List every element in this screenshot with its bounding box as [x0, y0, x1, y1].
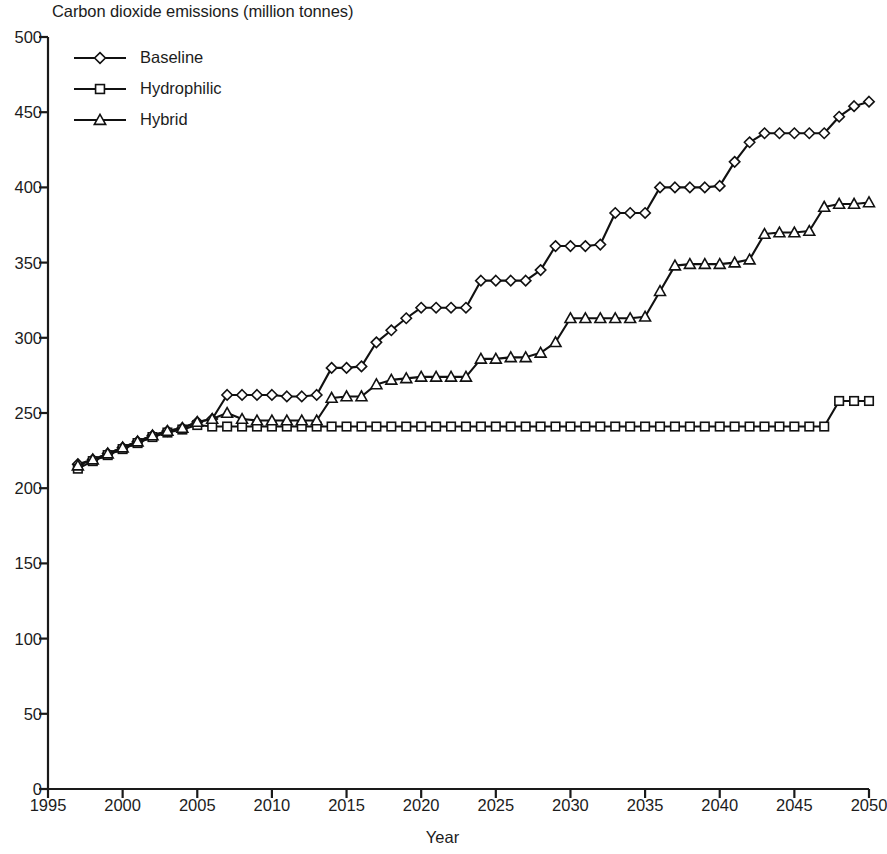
marker-square-icon	[596, 422, 605, 431]
y-tick-label: 450	[0, 103, 42, 122]
marker-diamond-icon	[610, 208, 620, 218]
y-tick-label: 100	[0, 629, 42, 648]
chart-legend: Baseline Hydrophilic Hybrid	[72, 42, 332, 135]
marker-triangle-icon	[744, 254, 755, 264]
marker-diamond-icon	[655, 182, 665, 192]
marker-square-icon	[775, 422, 784, 431]
x-tick-label: 2025	[477, 796, 514, 815]
marker-square-icon	[671, 422, 680, 431]
marker-square-icon	[656, 422, 665, 431]
marker-square-icon	[432, 422, 441, 431]
x-tick-label: 2020	[403, 796, 440, 815]
y-tick-label: 200	[0, 479, 42, 498]
marker-diamond-icon	[759, 128, 769, 138]
legend-marker-triangle-icon	[72, 110, 128, 130]
x-tick-label: 2040	[701, 796, 738, 815]
marker-square-icon	[357, 422, 366, 431]
marker-diamond-icon	[311, 390, 321, 400]
series-line	[78, 401, 869, 469]
marker-diamond-icon	[580, 241, 590, 251]
y-tick-label: 300	[0, 328, 42, 347]
marker-square-icon	[372, 422, 381, 431]
legend-item-baseline[interactable]: Baseline	[72, 42, 332, 73]
marker-square-icon	[506, 422, 515, 431]
marker-square-icon	[417, 422, 426, 431]
x-tick-label: 2035	[627, 796, 664, 815]
marker-diamond-icon	[565, 241, 575, 251]
marker-square-icon	[820, 422, 829, 431]
marker-diamond-icon	[252, 390, 262, 400]
legend-label: Hybrid	[140, 110, 188, 129]
marker-square-icon	[492, 422, 501, 431]
x-tick-label: 2010	[254, 796, 291, 815]
marker-diamond-icon	[640, 208, 650, 218]
marker-diamond-icon	[341, 363, 351, 373]
marker-diamond-icon	[789, 128, 799, 138]
marker-square-icon	[715, 422, 724, 431]
marker-diamond-icon	[267, 390, 277, 400]
marker-diamond-icon	[774, 128, 784, 138]
marker-square-icon	[850, 397, 859, 406]
marker-square-icon	[626, 422, 635, 431]
marker-square-icon	[387, 422, 396, 431]
marker-diamond-icon	[95, 52, 106, 63]
legend-swatch-graphic	[72, 79, 128, 99]
marker-square-icon	[686, 422, 695, 431]
x-tick-label: 2045	[776, 796, 813, 815]
marker-triangle-icon	[550, 337, 561, 347]
marker-diamond-icon	[461, 303, 471, 313]
y-tick-label: 50	[0, 704, 42, 723]
y-tick-label: 250	[0, 404, 42, 423]
marker-diamond-icon	[446, 303, 456, 313]
marker-diamond-icon	[685, 182, 695, 192]
legend-item-hybrid[interactable]: Hybrid	[72, 104, 332, 135]
marker-diamond-icon	[670, 182, 680, 192]
marker-diamond-icon	[864, 96, 874, 106]
legend-item-hydrophilic[interactable]: Hydrophilic	[72, 73, 332, 104]
series-line	[78, 102, 869, 464]
x-tick-label: 1995	[30, 796, 67, 815]
x-tick-label: 2050	[851, 796, 887, 815]
legend-swatch-graphic	[72, 110, 128, 130]
y-tick-label: 350	[0, 253, 42, 272]
marker-diamond-icon	[356, 361, 366, 371]
marker-square-icon	[447, 422, 456, 431]
marker-square-icon	[835, 397, 844, 406]
marker-diamond-icon	[715, 181, 725, 191]
marker-square-icon	[521, 422, 530, 431]
marker-diamond-icon	[222, 390, 232, 400]
chart-title: Carbon dioxide emissions (million tonnes…	[52, 2, 353, 21]
marker-diamond-icon	[700, 182, 710, 192]
marker-square-icon	[96, 84, 105, 93]
marker-triangle-icon	[222, 408, 233, 418]
marker-diamond-icon	[297, 391, 307, 401]
marker-square-icon	[790, 422, 799, 431]
marker-triangle-icon	[535, 347, 546, 357]
legend-label: Baseline	[140, 48, 203, 67]
legend-swatch-graphic	[72, 48, 128, 68]
marker-diamond-icon	[282, 391, 292, 401]
y-tick-label: 400	[0, 178, 42, 197]
marker-square-icon	[730, 422, 739, 431]
legend-marker-square-icon	[72, 79, 128, 99]
marker-square-icon	[760, 422, 769, 431]
marker-square-icon	[223, 422, 232, 431]
marker-diamond-icon	[595, 239, 605, 249]
marker-diamond-icon	[431, 303, 441, 313]
marker-square-icon	[581, 422, 590, 431]
marker-triangle-icon	[655, 286, 666, 296]
marker-square-icon	[566, 422, 575, 431]
marker-diamond-icon	[550, 241, 560, 251]
marker-square-icon	[805, 422, 814, 431]
marker-diamond-icon	[804, 128, 814, 138]
marker-square-icon	[477, 422, 486, 431]
marker-diamond-icon	[625, 208, 635, 218]
legend-marker-diamond-icon	[72, 48, 128, 68]
marker-square-icon	[536, 422, 545, 431]
series-hydrophilic	[74, 397, 874, 473]
marker-square-icon	[342, 422, 351, 431]
x-tick-label: 2015	[328, 796, 365, 815]
marker-square-icon	[865, 397, 874, 406]
marker-square-icon	[462, 422, 471, 431]
legend-label: Hydrophilic	[140, 79, 222, 98]
